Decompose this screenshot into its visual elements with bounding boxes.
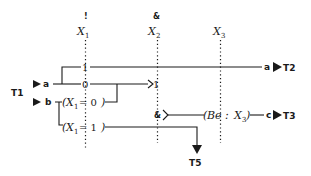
x1-eq-1-to-t5-wire <box>105 127 197 145</box>
variable-x3-header: X 3 <box>212 25 225 40</box>
behaviour-prefix: Be : <box>206 109 229 122</box>
output-terminal-t5: T5 <box>189 158 201 168</box>
svg-text:): ) <box>100 121 105 134</box>
input-a-arrow-icon <box>33 80 41 88</box>
variable-x2-sub: 2 <box>156 32 160 40</box>
output-terminal-t3: T3 <box>283 111 295 121</box>
and-chevron-icon <box>163 110 168 120</box>
condition-0-text: = 0 <box>79 97 97 108</box>
variable-x1-header: ! X 1 <box>76 12 89 40</box>
condition-x1-eq-0: ( X 1 = 0 ) <box>62 96 105 111</box>
output-t2-arrow-icon <box>273 62 282 72</box>
condition-1-sub: 1 <box>74 128 78 136</box>
output-t3-arrow-icon <box>273 110 282 120</box>
join-one-value: 1 <box>153 79 159 90</box>
condition-1-text: = 1 <box>79 122 97 133</box>
and-marker: & <box>153 12 160 21</box>
branch-one-value: 1 <box>82 62 88 73</box>
output-a-signal: a <box>264 62 270 72</box>
variable-x3-sub: 3 <box>221 32 225 40</box>
input-b-label: b <box>45 97 52 107</box>
condition-0-sub: 1 <box>74 103 78 111</box>
variable-x1-sub: 1 <box>85 32 89 40</box>
branch-one-wire <box>62 67 81 84</box>
zero-to-condition-wire <box>105 84 117 102</box>
exclusive-marker: ! <box>84 12 88 21</box>
variable-x2-header: & X 2 <box>147 12 160 40</box>
input-a-label: a <box>43 79 49 89</box>
boolean-flow-diagram: ! X 1 & X 2 X 3 a T1 1 a T2 0 1 b ( X 1 … <box>0 0 311 176</box>
svg-text:): ) <box>245 109 250 122</box>
behaviour-be-x3: ( Be : X 3 ) <box>203 109 250 124</box>
and-join-marker: & <box>154 111 161 120</box>
output-terminal-t2: T2 <box>283 63 295 73</box>
condition-x1-eq-1: ( X 1 = 1 ) <box>62 121 105 136</box>
input-b-arrow-icon <box>33 98 41 106</box>
input-terminal-t1: T1 <box>11 88 23 98</box>
svg-text:): ) <box>100 96 105 109</box>
branch-zero-value: 0 <box>82 79 88 90</box>
output-t5-arrow-icon <box>192 145 202 154</box>
output-c-signal: c <box>266 110 271 120</box>
